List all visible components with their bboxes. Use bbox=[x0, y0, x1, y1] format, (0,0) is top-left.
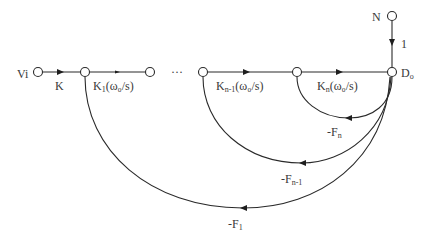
arrowheads bbox=[57, 39, 395, 211]
arrow-kn1 bbox=[243, 69, 250, 75]
arrow-k1 bbox=[115, 71, 120, 74]
label-ellipsis: ··· bbox=[171, 66, 183, 78]
label-d0: Do bbox=[401, 67, 414, 81]
label-feedback-f1: -F1 bbox=[228, 218, 243, 232]
arrow-one bbox=[389, 39, 395, 46]
label-feedback-fn: -Fn bbox=[327, 126, 342, 140]
node-2 bbox=[146, 68, 155, 77]
label-gain-k1: K1(ω₀/s) bbox=[93, 80, 134, 94]
arrow-fn1 bbox=[299, 160, 306, 166]
node-1 bbox=[81, 68, 90, 77]
label-gain-kn1: Kn-1(ω₀/s) bbox=[216, 80, 263, 94]
label-gain-k: K bbox=[55, 80, 64, 92]
label-vi: Vi bbox=[17, 68, 28, 80]
node-noise bbox=[388, 12, 397, 21]
signal-flow-graph bbox=[0, 0, 429, 239]
arrow-fn bbox=[345, 115, 352, 121]
node-n-1 bbox=[199, 68, 208, 77]
node-vi bbox=[34, 68, 43, 77]
node-n bbox=[293, 68, 302, 77]
arrow-k bbox=[57, 69, 64, 75]
label-gain-kn: Kn(ω₀/s) bbox=[317, 80, 358, 94]
label-noise-n: N bbox=[372, 11, 381, 23]
arrow-f1 bbox=[240, 205, 247, 211]
label-feedback-fn1: -Fn-1 bbox=[281, 173, 302, 187]
arrow-kn bbox=[336, 69, 343, 75]
label-gain-one: 1 bbox=[401, 38, 407, 50]
node-d0 bbox=[388, 68, 397, 77]
